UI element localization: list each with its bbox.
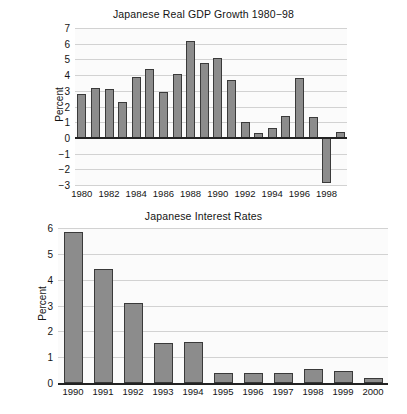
x-axis-tick-label: 1991 bbox=[92, 386, 113, 397]
y-axis-tick-label: −3 bbox=[53, 180, 70, 191]
chart-panel-interest-rates: Japanese Interest Rates Percent 65432101… bbox=[0, 206, 407, 414]
bar bbox=[227, 80, 236, 138]
y-axis-tick-label: 5 bbox=[53, 54, 70, 65]
y-axis-tick-label: 7 bbox=[53, 23, 70, 34]
x-axis-baseline bbox=[58, 383, 388, 385]
figure-two-bar-charts: Japanese Real GDP Growth 1980−98 Percent… bbox=[0, 0, 407, 414]
y-axis-tick-label: 0 bbox=[36, 378, 53, 389]
x-axis-tick-label: 1980 bbox=[71, 188, 92, 199]
gridline bbox=[75, 44, 347, 45]
x-axis-tick-label: 1998 bbox=[302, 386, 323, 397]
bar bbox=[159, 92, 168, 138]
gridline bbox=[75, 154, 347, 155]
y-axis-tick-label: −1 bbox=[53, 148, 70, 159]
bar bbox=[186, 41, 195, 138]
bar bbox=[309, 117, 318, 137]
x-axis-tick-label: 1994 bbox=[182, 386, 203, 397]
bar bbox=[274, 373, 293, 383]
bar bbox=[213, 58, 222, 138]
x-axis-tick-label: 1992 bbox=[122, 386, 143, 397]
gridline bbox=[58, 254, 388, 255]
y-axis-tick-label: 5 bbox=[36, 248, 53, 259]
x-axis-tick-label: 1990 bbox=[207, 188, 228, 199]
y-axis-tick-label: 2 bbox=[36, 326, 53, 337]
gridline bbox=[75, 91, 347, 92]
gridline bbox=[58, 228, 388, 229]
x-axis-tick-label: 1984 bbox=[126, 188, 147, 199]
bar bbox=[77, 94, 86, 138]
chart-title-gdp-growth: Japanese Real GDP Growth 1980−98 bbox=[0, 8, 407, 20]
gridline bbox=[75, 75, 347, 76]
bar bbox=[118, 102, 127, 138]
x-axis-tick-label: 1990 bbox=[62, 386, 83, 397]
bar bbox=[244, 373, 263, 383]
zero-line bbox=[75, 137, 347, 139]
bar bbox=[154, 343, 173, 383]
gridline bbox=[75, 185, 347, 186]
chart-title-interest-rates: Japanese Interest Rates bbox=[0, 210, 407, 222]
gridline bbox=[75, 107, 347, 108]
y-axis-tick-label: 0 bbox=[53, 132, 70, 143]
bar bbox=[132, 77, 141, 138]
bar bbox=[214, 373, 233, 383]
y-axis-tick-label: 3 bbox=[53, 85, 70, 96]
x-axis-tick-label: 1986 bbox=[153, 188, 174, 199]
x-axis-tick-label: 1999 bbox=[332, 386, 353, 397]
x-axis-tick-label: 1982 bbox=[98, 188, 119, 199]
y-axis-tick-label: 3 bbox=[36, 300, 53, 311]
x-axis-tick-label: 1994 bbox=[262, 188, 283, 199]
bar bbox=[145, 69, 154, 138]
bar bbox=[94, 269, 113, 383]
x-axis-tick-label: 1995 bbox=[212, 386, 233, 397]
x-axis-tick-label: 1996 bbox=[242, 386, 263, 397]
y-axis-tick-label: 1 bbox=[36, 352, 53, 363]
plot-area-gdp bbox=[75, 28, 347, 185]
bar bbox=[295, 78, 304, 138]
y-axis-tick-label: 4 bbox=[53, 70, 70, 81]
y-axis-tick-label: 1 bbox=[53, 117, 70, 128]
bar bbox=[124, 303, 143, 383]
y-axis-tick-label: −2 bbox=[53, 164, 70, 175]
chart-panel-gdp-growth: Japanese Real GDP Growth 1980−98 Percent… bbox=[0, 0, 407, 206]
bar bbox=[64, 232, 83, 383]
x-axis-tick-label: 1992 bbox=[234, 188, 255, 199]
gridline bbox=[75, 59, 347, 60]
x-axis-tick-label: 1993 bbox=[152, 386, 173, 397]
bar bbox=[184, 342, 203, 383]
y-axis-tick-label: 6 bbox=[36, 223, 53, 234]
x-axis-tick-label: 1988 bbox=[180, 188, 201, 199]
bar bbox=[281, 116, 290, 138]
bar bbox=[322, 138, 331, 184]
bar bbox=[304, 369, 323, 383]
x-axis-tick-label: 1997 bbox=[272, 386, 293, 397]
gridline bbox=[75, 28, 347, 29]
bar bbox=[200, 63, 209, 138]
bar bbox=[173, 74, 182, 138]
gridline bbox=[75, 122, 347, 123]
bar bbox=[91, 88, 100, 138]
x-axis-tick-label: 1996 bbox=[289, 188, 310, 199]
gridline bbox=[75, 169, 347, 170]
y-axis-tick-label: 4 bbox=[36, 274, 53, 285]
bar bbox=[241, 122, 250, 138]
bar bbox=[334, 371, 353, 383]
x-axis-tick-label: 2000 bbox=[362, 386, 383, 397]
plot-area-interest-rates bbox=[58, 228, 388, 383]
y-axis-tick-label: 2 bbox=[53, 101, 70, 112]
bar bbox=[105, 89, 114, 138]
y-axis-tick-label: 6 bbox=[53, 38, 70, 49]
x-axis-tick-label: 1998 bbox=[316, 188, 337, 199]
